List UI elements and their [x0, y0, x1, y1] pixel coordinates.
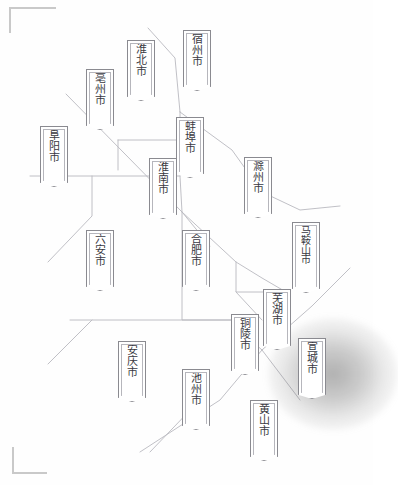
- city-name-char: 市: [307, 364, 318, 375]
- city-label-huainan[interactable]: 淮南市: [149, 158, 177, 210]
- boundary-segment: [118, 112, 180, 140]
- city-name-char: 市: [136, 66, 147, 77]
- city-name-char: 市: [253, 183, 264, 194]
- boundary-segment: [262, 350, 300, 400]
- city-name-text: 池州市: [191, 373, 202, 407]
- city-label-huangshan[interactable]: 黄山市: [250, 400, 278, 452]
- boundary-segment: [180, 176, 182, 212]
- city-name-text: 蚌埠市: [185, 121, 196, 155]
- city-name-char: 市: [192, 56, 203, 67]
- city-name-text: 宣城市: [307, 342, 318, 376]
- city-name-text: 六安市: [95, 234, 106, 268]
- city-label-chuzhou[interactable]: 滁州市: [244, 157, 272, 209]
- city-name-text: 亳州市: [95, 73, 106, 107]
- city-name-text: 阜阳市: [49, 130, 60, 164]
- city-label-xuancheng[interactable]: 宣城市: [298, 338, 326, 390]
- city-name-char: 市: [95, 256, 106, 267]
- city-name-text: 滁州市: [253, 161, 264, 195]
- city-name-char: 市: [259, 426, 270, 437]
- city-name-char: 市: [191, 395, 202, 406]
- city-label-huaibei[interactable]: 淮北市: [127, 40, 155, 92]
- city-name-text: 铜陵市: [240, 318, 251, 352]
- city-name-text: 马鞍山市: [301, 226, 311, 265]
- city-label-bozhou[interactable]: 亳州市: [86, 69, 114, 121]
- city-name-char: 市: [49, 152, 60, 163]
- city-label-chizhou[interactable]: 池州市: [182, 369, 210, 421]
- city-label-tongling[interactable]: 铜陵市: [231, 314, 259, 366]
- city-name-char: 市: [95, 95, 106, 106]
- city-name-text: 合肥市: [191, 234, 202, 268]
- city-label-hefei[interactable]: 合肥市: [182, 230, 210, 282]
- city-name-char: 市: [301, 255, 311, 265]
- city-name-char: 市: [158, 184, 169, 195]
- city-label-suzhou[interactable]: 宿州市: [183, 30, 211, 82]
- city-label-wuhu[interactable]: 芜湖市: [263, 289, 291, 341]
- city-name-char: 市: [240, 340, 251, 351]
- city-name-char: 市: [191, 256, 202, 267]
- city-name-text: 宿州市: [192, 34, 203, 68]
- city-name-char: 市: [185, 143, 196, 154]
- city-name-text: 安庆市: [127, 345, 138, 379]
- city-name-text: 淮北市: [136, 44, 147, 78]
- city-name-char: 市: [272, 315, 283, 326]
- city-label-maanshan[interactable]: 马鞍山市: [292, 222, 320, 284]
- city-name-text: 淮南市: [158, 162, 169, 196]
- city-label-bengbu[interactable]: 蚌埠市: [176, 117, 204, 169]
- boundary-segment: [48, 320, 92, 364]
- city-name-text: 芜湖市: [272, 293, 283, 327]
- city-name-text: 黄山市: [259, 404, 270, 438]
- city-label-luan[interactable]: 六安市: [86, 230, 114, 282]
- city-name-char: 市: [127, 367, 138, 378]
- city-label-fuyang[interactable]: 阜阳市: [40, 126, 68, 178]
- boundary-segment: [262, 192, 340, 210]
- city-label-anqing[interactable]: 安庆市: [118, 341, 146, 393]
